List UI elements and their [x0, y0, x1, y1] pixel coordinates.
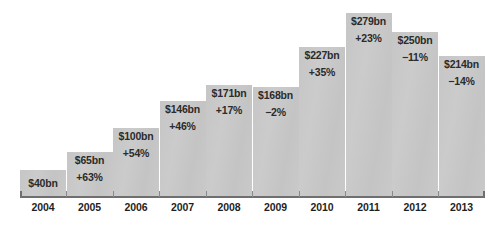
x-tick-label-2012: 2012	[392, 201, 438, 213]
bar-2004[interactable]	[20, 170, 66, 196]
x-axis-tick-5	[252, 191, 253, 197]
x-tick-label-2007: 2007	[160, 201, 206, 213]
plot-area: $40bn $65bn +63% $100bn +54% $146bn +46%	[20, 6, 485, 196]
x-tick-label-2004: 2004	[20, 201, 66, 213]
x-axis-tick-4	[206, 191, 207, 197]
bar-2012[interactable]	[392, 32, 438, 196]
x-axis-right-cap	[483, 191, 485, 197]
bar-2010[interactable]	[299, 47, 345, 196]
bar-2009[interactable]	[253, 87, 299, 196]
x-axis-tick-3	[159, 191, 160, 197]
x-tick-label-2006: 2006	[113, 201, 159, 213]
bar-2008[interactable]	[206, 85, 252, 196]
x-axis-tick-1	[66, 191, 67, 197]
bar-2011[interactable]	[346, 13, 392, 196]
x-axis-tick-6	[299, 191, 300, 197]
bar-2013[interactable]	[439, 56, 485, 196]
x-axis-tick-8	[392, 191, 393, 197]
x-axis-tick-2	[113, 191, 114, 197]
bar-2007[interactable]	[160, 101, 206, 196]
bar-chart: $40bn $65bn +63% $100bn +54% $146bn +46%	[0, 0, 493, 230]
x-tick-label-2005: 2005	[67, 201, 113, 213]
x-axis-tick-9	[438, 191, 439, 197]
x-axis-left-cap	[20, 191, 22, 197]
x-tick-label-2009: 2009	[253, 201, 299, 213]
x-tick-label-2010: 2010	[299, 201, 345, 213]
x-axis-tick-7	[345, 191, 346, 197]
x-tick-label-2008: 2008	[206, 201, 252, 213]
x-tick-label-2011: 2011	[346, 201, 392, 213]
bar-2006[interactable]	[113, 128, 159, 196]
x-tick-label-2013: 2013	[439, 201, 485, 213]
bar-2005[interactable]	[67, 152, 113, 196]
x-axis-tick-labels: 2004 2005 2006 2007 2008 2009 2010 2011 …	[20, 201, 485, 219]
